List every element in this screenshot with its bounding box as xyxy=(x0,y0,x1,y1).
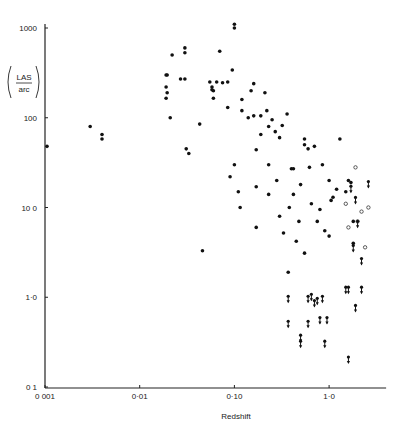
filled-point xyxy=(218,50,222,54)
arrow-down-icon xyxy=(356,225,359,228)
filled-point xyxy=(238,206,242,210)
filled-point xyxy=(237,190,241,194)
filled-point xyxy=(335,187,339,191)
filled-point xyxy=(228,175,232,179)
filled-point xyxy=(212,96,216,100)
filled-point xyxy=(254,226,258,230)
arrow-down-icon xyxy=(321,300,324,303)
arrow-down-icon xyxy=(287,300,290,303)
filled-point xyxy=(170,53,174,57)
arrow-down-icon xyxy=(360,291,363,294)
x-tick-label: 0·01 xyxy=(132,392,149,401)
y-tick-label: 1000 xyxy=(19,24,37,33)
axes xyxy=(45,24,386,388)
filled-point xyxy=(338,137,342,141)
filled-point xyxy=(165,73,169,77)
arrow-down-icon xyxy=(316,302,319,305)
filled-point xyxy=(168,116,172,120)
filled-point xyxy=(164,85,168,89)
y-title-denominator: arc xyxy=(18,85,29,94)
filled-point xyxy=(201,249,205,253)
filled-point xyxy=(318,208,322,212)
open-point xyxy=(344,202,347,205)
filled-point xyxy=(327,234,331,238)
open-point xyxy=(360,210,363,213)
filled-point xyxy=(313,145,317,149)
filled-point xyxy=(270,118,274,122)
y-tick-label: 100 xyxy=(24,114,38,123)
filled-point xyxy=(351,220,355,224)
filled-point xyxy=(306,147,310,151)
filled-point xyxy=(252,82,256,86)
filled-point xyxy=(240,109,244,113)
y-tick-label: 10 0 xyxy=(21,204,37,213)
filled-point xyxy=(259,133,263,137)
y-axis-title: LASarc xyxy=(8,66,39,98)
filled-point xyxy=(267,125,271,129)
filled-point xyxy=(321,163,325,167)
paren-left xyxy=(8,66,11,98)
y-title-numerator: LAS xyxy=(16,73,31,82)
filled-point xyxy=(329,199,333,203)
y-tick-label: 1·0 xyxy=(25,293,37,302)
filled-point xyxy=(165,91,169,95)
filled-point xyxy=(249,89,253,93)
filled-point xyxy=(265,109,269,113)
filled-point xyxy=(303,143,307,147)
filled-point xyxy=(187,152,191,156)
arrow-down-icon xyxy=(323,345,326,348)
filled-point xyxy=(303,251,307,255)
filled-point xyxy=(254,185,258,189)
arrow-down-icon xyxy=(299,345,302,348)
filled-point xyxy=(100,137,104,141)
filled-point xyxy=(233,26,237,30)
filled-point xyxy=(280,124,284,128)
filled-point xyxy=(344,190,348,194)
filled-point xyxy=(308,166,312,170)
arrow-down-icon xyxy=(325,322,328,325)
filled-point xyxy=(233,163,237,167)
y-tick-label: 0 1 xyxy=(26,383,38,392)
filled-point xyxy=(292,167,296,171)
filled-point xyxy=(246,116,250,120)
filled-point xyxy=(259,114,263,118)
paren-right xyxy=(36,66,39,98)
scatter-chart: 0 11·010 010010000 0010·010·101·0Redshif… xyxy=(0,0,409,425)
filled-point xyxy=(263,91,267,95)
arrow-down-icon xyxy=(318,322,321,325)
filled-point xyxy=(254,148,258,152)
arrow-down-icon xyxy=(306,325,309,328)
x-tick-label: 0·10 xyxy=(226,392,243,401)
filled-point xyxy=(267,163,271,167)
x-tick-label: 0 001 xyxy=(35,392,56,401)
arrow-down-icon xyxy=(306,300,309,303)
filled-point xyxy=(230,68,234,72)
arrow-down-icon xyxy=(352,249,355,252)
arrow-down-icon xyxy=(347,291,350,294)
filled-point xyxy=(179,77,183,81)
arrow-down-icon xyxy=(344,291,347,294)
filled-point xyxy=(285,112,289,116)
filled-point xyxy=(88,125,92,129)
filled-point xyxy=(297,220,301,224)
arrow-down-icon xyxy=(287,325,290,328)
filled-point xyxy=(226,80,230,84)
filled-point xyxy=(183,51,187,55)
filled-point xyxy=(294,240,298,244)
filled-point xyxy=(164,96,168,100)
open-point xyxy=(367,206,370,209)
filled-point xyxy=(252,114,256,118)
filled-point xyxy=(215,80,219,84)
arrow-down-icon xyxy=(349,190,352,193)
arrow-down-icon xyxy=(367,186,370,189)
x-axis-title: Redshift xyxy=(221,412,251,421)
arrow-down-icon xyxy=(354,201,357,204)
filled-point xyxy=(221,81,225,85)
filled-point xyxy=(100,133,104,137)
filled-point xyxy=(292,193,296,197)
arrow-down-icon xyxy=(313,305,316,308)
filled-point xyxy=(226,106,230,110)
filled-point xyxy=(212,89,216,93)
filled-point xyxy=(303,137,307,141)
filled-point xyxy=(331,195,335,199)
